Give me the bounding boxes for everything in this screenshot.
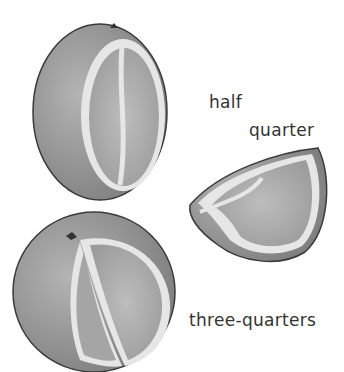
half-orange <box>33 23 167 200</box>
fraction-illustration: half quarter three-quarters <box>0 0 344 372</box>
label-quarter: quarter <box>249 120 314 140</box>
label-half: half <box>209 92 242 112</box>
quarter-orange <box>190 148 327 261</box>
label-three-quarters: three-quarters <box>189 310 316 330</box>
three-quarters-orange <box>13 212 175 372</box>
